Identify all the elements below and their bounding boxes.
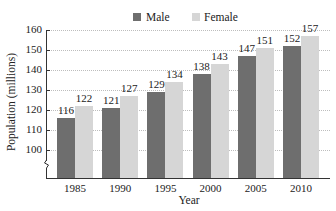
axis-break-icon xyxy=(45,160,49,168)
axes-lines xyxy=(0,0,336,211)
chart: Male Female Population (millions) 100110… xyxy=(0,0,336,211)
x-axis-title: Year xyxy=(178,194,199,206)
plot-area: 1001101201301401501601161221985121127199… xyxy=(0,0,336,211)
